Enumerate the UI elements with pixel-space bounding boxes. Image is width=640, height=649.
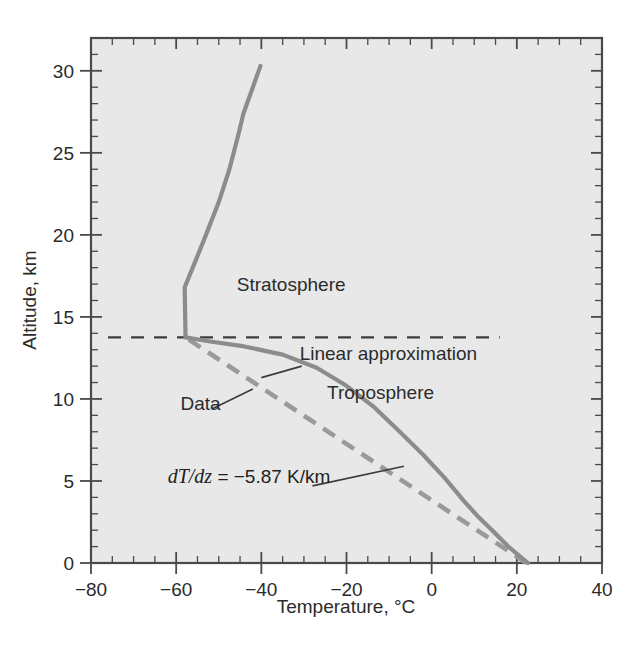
x-tick-label: −80	[75, 579, 107, 600]
atmosphere-temperature-profile-figure: −80−60−40−2002040 051015202530 Temperatu…	[0, 0, 640, 649]
x-tick-label: 40	[591, 579, 612, 600]
y-tick-label: 30	[53, 61, 74, 82]
linear-approximation-annotation: Linear approximation	[300, 343, 477, 364]
data-annotation: Data	[180, 393, 221, 414]
lapse-rate-value: = −5.87 K/km	[212, 466, 330, 487]
troposphere-region-label: Troposphere	[327, 382, 434, 403]
lapse-rate-annotation: dT/dz = −5.87 K/km	[168, 465, 331, 487]
y-tick-label: 0	[63, 553, 74, 574]
x-tick-label: −40	[245, 579, 277, 600]
x-tick-label: −60	[160, 579, 192, 600]
y-tick-label: 20	[53, 225, 74, 246]
x-axis-title: Temperature, °C	[277, 596, 416, 617]
temperature-altitude-chart: −80−60−40−2002040 051015202530 Temperatu…	[0, 0, 640, 649]
stratosphere-region-label: Stratosphere	[237, 274, 346, 295]
y-tick-label: 15	[53, 307, 74, 328]
y-tick-label: 5	[63, 471, 74, 492]
y-tick-label: 25	[53, 143, 74, 164]
lapse-rate-symbol: dT/dz	[168, 465, 213, 487]
x-tick-label: 20	[506, 579, 527, 600]
y-tick-label: 10	[53, 389, 74, 410]
y-axis-title: Altitude, km	[19, 250, 40, 349]
x-tick-label: 0	[426, 579, 437, 600]
